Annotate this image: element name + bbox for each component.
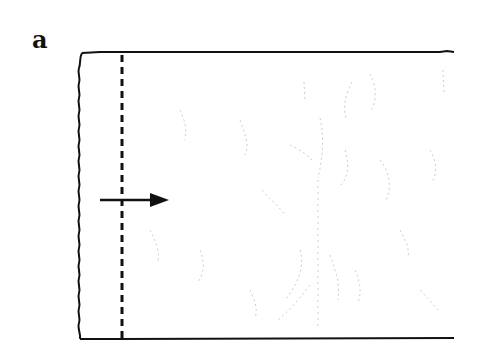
specimen-bottom-edge xyxy=(80,338,454,339)
diagram-canvas xyxy=(0,0,484,350)
specimen-wavy-left-edge xyxy=(78,53,82,339)
specimen-top-edge xyxy=(82,51,454,53)
specimen-texture xyxy=(150,70,444,330)
right-arrow-icon xyxy=(100,193,169,207)
